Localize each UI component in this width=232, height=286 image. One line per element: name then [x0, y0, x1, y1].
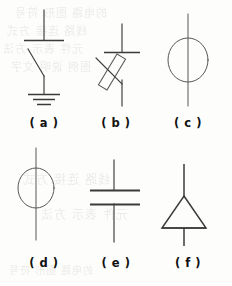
- switch-to-ground-symbol: [8, 6, 80, 112]
- circle-on-line-large-symbol: [152, 6, 224, 112]
- circle-on-line-small-symbol: [8, 146, 80, 252]
- panel-caption-d: ( d ): [8, 256, 80, 270]
- panel-c: ( c ): [152, 6, 224, 136]
- panel-e: ( e ): [82, 146, 150, 276]
- panel-caption-b: ( b ): [82, 116, 150, 130]
- panel-caption-c: ( c ): [152, 116, 224, 130]
- panel-b: ( b ): [82, 6, 150, 136]
- capacitor-symbol: [82, 146, 150, 252]
- panel-f: ( f ): [152, 146, 224, 276]
- triangle-on-line-symbol: [152, 146, 224, 252]
- symbol-grid: ( a ) ( b ): [0, 0, 232, 286]
- panel-caption-a: ( a ): [8, 116, 80, 130]
- fuse-inclined-symbol: [82, 6, 150, 112]
- panel-caption-f: ( f ): [152, 256, 224, 270]
- panel-d: ( d ): [8, 146, 80, 276]
- figure-container: 的电路 图形 符号 线路 连接 方式 元件 表示 方法 图例 说明 文字 线路 …: [0, 0, 232, 286]
- panel-caption-e: ( e ): [82, 256, 150, 270]
- panel-a: ( a ): [8, 6, 80, 136]
